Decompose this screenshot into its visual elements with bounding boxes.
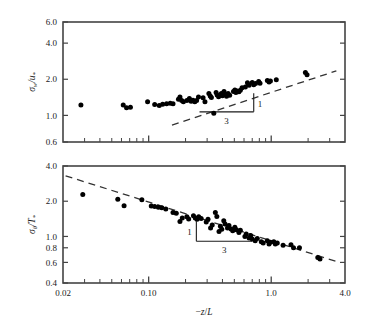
y-tick-label: 4.0 [46, 38, 58, 48]
data-point [186, 216, 191, 221]
y-axis-title-text: σw/u* [27, 71, 38, 91]
x-tick-label: 0.10 [141, 288, 157, 298]
data-point [206, 217, 211, 222]
y-tick-label: 6.0 [46, 17, 58, 27]
y-tick-label: 2.0 [46, 196, 58, 206]
panel-top: 0.61.02.04.06.013σw/u* [27, 17, 345, 147]
y-tick-label: 0.4 [46, 278, 58, 288]
data-point [122, 203, 127, 208]
data-point [238, 228, 243, 233]
data-point [152, 102, 157, 107]
data-point [78, 103, 83, 108]
data-point [268, 79, 273, 84]
data-point [258, 81, 263, 86]
data-point [209, 95, 214, 100]
data-point [274, 77, 279, 82]
y-tick-label: 2.0 [46, 74, 58, 84]
y-axis-title-text: σθ/T* [27, 214, 38, 234]
data-point [219, 227, 224, 232]
data-point [227, 93, 232, 98]
data-point [145, 99, 150, 104]
data-point [171, 101, 176, 106]
data-point [297, 245, 302, 250]
x-tick-label: 1.0 [266, 288, 278, 298]
data-point [275, 240, 280, 245]
plot-frame-bottom [63, 166, 345, 283]
data-points-bottom [80, 192, 322, 262]
data-point [199, 216, 204, 221]
slope-label-horizontal: 3 [224, 116, 229, 126]
slope-label-vertical: 1 [187, 227, 192, 237]
y-axis-title-top: σw/u* [27, 71, 38, 91]
x-tick-label: 0.02 [55, 288, 71, 298]
data-point [214, 214, 219, 219]
data-point [128, 105, 133, 110]
slope-label-vertical: 1 [258, 99, 263, 109]
data-point [281, 243, 286, 248]
data-point [180, 215, 185, 220]
data-point [202, 99, 207, 104]
data-point [115, 197, 120, 202]
y-tick-label: 0.8 [46, 243, 58, 253]
panel-bottom: 0.40.60.81.02.04.00.020.101.04.013σθ/T*−… [27, 161, 351, 317]
y-tick-label: 4.0 [46, 161, 58, 171]
data-point [305, 72, 310, 77]
y-tick-label: 0.6 [46, 137, 58, 147]
data-point [163, 206, 168, 211]
slope-label-horizontal: 3 [222, 245, 227, 255]
dual-panel-scatter-plot: 0.61.02.04.06.013σw/u*0.40.60.81.02.04.0… [0, 0, 373, 328]
x-tick-label: 4.0 [339, 288, 351, 298]
figure-container: 0.61.02.04.06.013σw/u*0.40.60.81.02.04.0… [0, 0, 373, 328]
y-tick-label: 1.0 [46, 232, 58, 242]
data-point [291, 245, 296, 250]
data-point [80, 192, 85, 197]
data-points-top [78, 70, 309, 116]
data-point [196, 95, 201, 100]
data-point [139, 197, 144, 202]
data-point [317, 257, 322, 262]
data-point [244, 231, 249, 236]
y-axis-title-bottom: σθ/T* [27, 214, 38, 234]
data-point [211, 111, 216, 116]
data-point [210, 223, 215, 228]
y-tick-label: 0.6 [46, 258, 58, 268]
y-tick-label: 1.0 [46, 111, 58, 121]
data-point [174, 211, 179, 216]
x-axis-title: −z/L [196, 307, 213, 317]
data-point [255, 236, 260, 241]
